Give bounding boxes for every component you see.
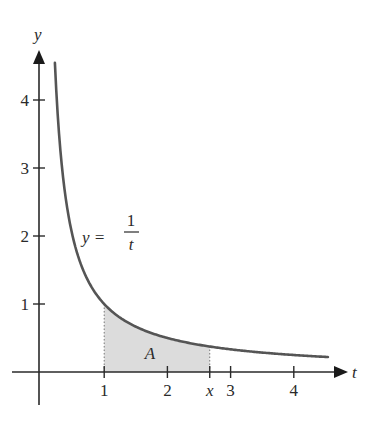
area-label: A — [144, 344, 156, 363]
x-tick-label: 4 — [290, 381, 299, 400]
function-label-lhs: y = — [80, 228, 105, 247]
y-tick-label: 4 — [21, 91, 30, 110]
y-axis-label: y — [32, 25, 42, 44]
x-tick-label: 3 — [226, 381, 235, 400]
x-tick-label: 2 — [163, 381, 172, 400]
plot-canvas: 12x341234 t y y = 1 t A — [0, 0, 368, 424]
curve-one-over-t — [55, 63, 328, 357]
shaded-area-fill — [104, 304, 210, 372]
function-label-numerator: 1 — [127, 211, 136, 230]
y-axis-arrow-icon — [33, 50, 45, 64]
x-tick-label: x — [205, 381, 214, 400]
graph-figure: 12x341234 t y y = 1 t A — [0, 0, 368, 424]
x-axis-arrow-icon — [334, 366, 348, 378]
x-tick-label: 1 — [100, 381, 109, 400]
x-axis-label: t — [352, 363, 358, 382]
function-label-denominator: t — [129, 235, 135, 254]
shaded-area-region — [104, 304, 210, 372]
y-tick-label: 3 — [21, 159, 30, 178]
y-tick-label: 2 — [21, 227, 30, 246]
y-tick-label: 1 — [21, 295, 30, 314]
